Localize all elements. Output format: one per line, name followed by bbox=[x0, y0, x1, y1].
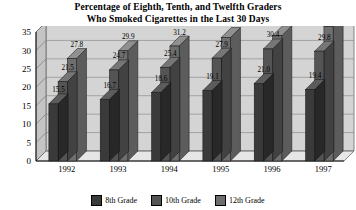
y-axis-tick-label: 5 bbox=[27, 138, 32, 148]
x-axis-tick-label: 1996 bbox=[264, 164, 281, 174]
y-axis-tick-label: 20 bbox=[22, 82, 32, 92]
bar-side bbox=[170, 57, 180, 161]
bar-side bbox=[315, 79, 325, 161]
chart-container: Percentage of Eighth, Tenth, and Twelfth… bbox=[0, 0, 356, 210]
bar-value-label: 19.1 bbox=[206, 73, 219, 81]
bar-side bbox=[324, 41, 334, 161]
bar-side bbox=[221, 48, 231, 161]
bar-side bbox=[230, 28, 240, 161]
plot-svg: 0510152025303536.529.819.434.030.421.033… bbox=[0, 26, 356, 186]
bar-value-label: 33.5 bbox=[225, 26, 238, 28]
bar-value-label: 24.7 bbox=[113, 52, 126, 60]
x-axis-tick-label: 1997 bbox=[315, 164, 332, 174]
bar bbox=[100, 99, 109, 161]
bar-side bbox=[333, 26, 343, 161]
bar bbox=[152, 92, 161, 161]
bar-side bbox=[67, 72, 77, 161]
x-axis-tick-label: 1992 bbox=[58, 164, 75, 174]
bar-value-label: 27.9 bbox=[215, 41, 228, 49]
chart-title: Percentage of Eighth, Tenth, and Twelfth… bbox=[0, 2, 356, 25]
bar bbox=[306, 89, 315, 161]
y-axis-tick-label: 25 bbox=[22, 64, 32, 74]
bar-side bbox=[109, 89, 119, 161]
y-axis-tick-label: 0 bbox=[27, 156, 32, 166]
bar-value-label: 18.6 bbox=[155, 75, 168, 83]
chart-title-line-1: Percentage of Eighth, Tenth, and Twelfth… bbox=[0, 2, 356, 14]
bar-side bbox=[212, 81, 222, 161]
bar-side bbox=[58, 94, 68, 161]
chart-title-line-2: Who Smoked Cigarettes in the Last 30 Day… bbox=[0, 14, 356, 26]
x-axis-tick-label: 1993 bbox=[110, 164, 127, 174]
bar-value-label: 30.4 bbox=[267, 31, 280, 39]
bar bbox=[203, 91, 212, 161]
legend-swatch-10th bbox=[151, 195, 162, 206]
bar-side bbox=[161, 82, 171, 161]
legend-item-12th: 12th Grade bbox=[215, 195, 265, 206]
chart-legend: 8th Grade 10th Grade 12th Grade bbox=[0, 193, 356, 207]
bar-value-label: 29.9 bbox=[122, 33, 135, 41]
bar-side bbox=[263, 74, 273, 161]
bar-side bbox=[273, 39, 283, 161]
bar bbox=[254, 84, 263, 161]
bar-side bbox=[179, 36, 189, 161]
bar-value-label: 27.8 bbox=[71, 41, 84, 49]
y-axis-tick-label: 30 bbox=[22, 46, 32, 56]
x-axis-tick-label: 1995 bbox=[212, 164, 229, 174]
legend-label-8th: 8th Grade bbox=[105, 196, 137, 205]
y-axis-tick-label: 10 bbox=[22, 119, 32, 129]
plot-area: 0510152025303536.529.819.434.030.421.033… bbox=[0, 26, 356, 186]
bar-value-label: 29.8 bbox=[318, 34, 331, 42]
legend-item-10th: 10th Grade bbox=[151, 195, 201, 206]
bar-value-label: 15.5 bbox=[52, 86, 65, 94]
y-axis-tick-label: 15 bbox=[22, 101, 32, 111]
bar-value-label: 25.4 bbox=[164, 50, 177, 58]
bar-value-label: 21.5 bbox=[61, 64, 74, 72]
y-axis-tick-label: 35 bbox=[22, 27, 32, 37]
bar-value-label: 21.0 bbox=[258, 66, 271, 74]
legend-swatch-8th bbox=[91, 195, 102, 206]
bar-side bbox=[119, 60, 129, 161]
bar-value-label: 31.2 bbox=[173, 29, 186, 37]
bar-side bbox=[282, 26, 292, 161]
bar-side bbox=[128, 41, 138, 161]
bar bbox=[49, 104, 58, 161]
legend-swatch-12th bbox=[215, 195, 226, 206]
legend-item-8th: 8th Grade bbox=[91, 195, 137, 206]
x-axis-tick-label: 1994 bbox=[161, 164, 179, 174]
bar-side bbox=[76, 49, 86, 161]
legend-label-10th: 10th Grade bbox=[165, 196, 201, 205]
legend-label-12th: 12th Grade bbox=[229, 196, 265, 205]
bar-value-label: 19.4 bbox=[309, 72, 322, 80]
bar-value-label: 16.7 bbox=[104, 82, 117, 90]
